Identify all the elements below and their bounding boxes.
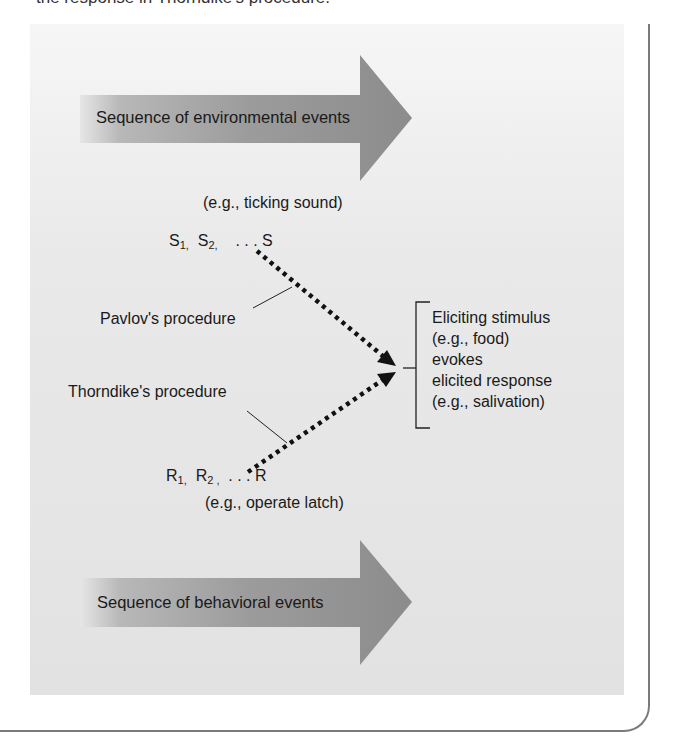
pavlov-dotted-arrow: [257, 251, 396, 366]
outcome-line: elicited response: [432, 370, 552, 391]
outcome-line: (e.g., food): [432, 328, 552, 349]
response-ellipsis: . . .: [228, 467, 250, 484]
thorndike-procedure-label: Thorndike's procedure: [68, 383, 227, 401]
stimulus-s2: S: [198, 232, 209, 249]
thorndike-leader-line: [247, 411, 287, 443]
response-r1-subscript: 1,: [178, 474, 187, 486]
environmental-example: (e.g., ticking sound): [203, 194, 343, 212]
outcome-line: evokes: [432, 349, 552, 370]
outcome-line: (e.g., salivation): [432, 391, 552, 412]
stimulus-final: S: [262, 232, 273, 249]
outcome-bracket: [403, 302, 430, 428]
behavioral-events-label: Sequence of behavioral events: [97, 593, 324, 612]
outcome-text: Eliciting stimulus (e.g., food) evokes e…: [432, 307, 552, 412]
stimulus-s2-subscript: 2,: [208, 239, 217, 251]
thorndike-dotted-arrow: [248, 372, 396, 472]
response-final: R: [255, 467, 267, 484]
response-r1: R: [166, 467, 178, 484]
pavlov-procedure-label: Pavlov's procedure: [100, 310, 236, 328]
outcome-line: Eliciting stimulus: [432, 307, 552, 328]
environmental-events-label: Sequence of environmental events: [96, 108, 350, 127]
stimulus-s1: S: [169, 232, 180, 249]
stimulus-s1-subscript: 1,: [180, 239, 189, 251]
stimulus-ellipsis: . . .: [235, 232, 257, 249]
pavlov-leader-line: [253, 287, 292, 308]
response-sequence: R1, R2 , . . . R: [166, 467, 267, 486]
stimulus-sequence: S1, S2, . . . S: [169, 232, 273, 251]
behavioral-example: (e.g., operate latch): [205, 494, 344, 512]
response-r2: R: [196, 467, 208, 484]
response-r2-subscript: 2 ,: [207, 474, 219, 486]
